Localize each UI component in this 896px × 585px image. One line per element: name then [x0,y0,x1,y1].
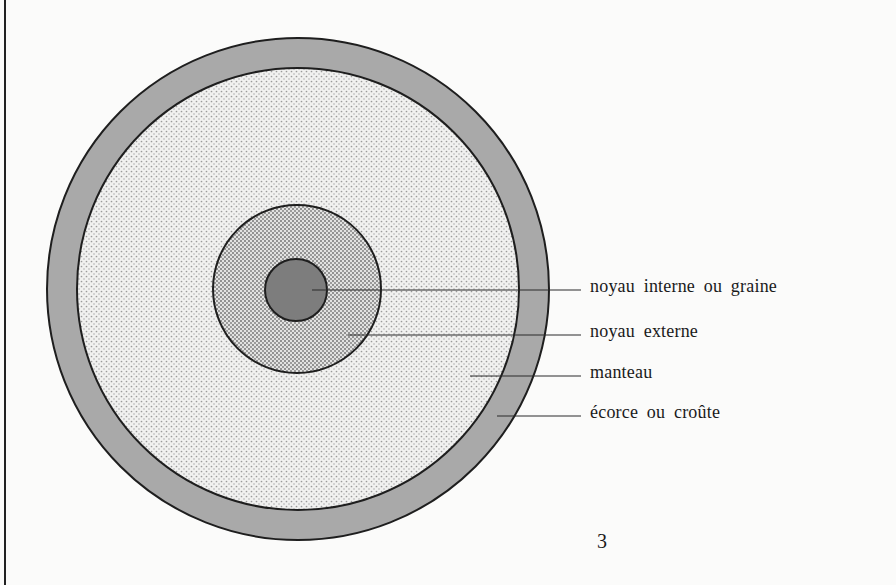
label-crust: écorce ou croûte [590,402,720,423]
label-mantle: manteau [590,362,652,383]
page-number: 3 [597,530,607,553]
label-inner-core: noyau interne ou graine [590,276,777,297]
label-outer-core: noyau externe [590,321,698,342]
